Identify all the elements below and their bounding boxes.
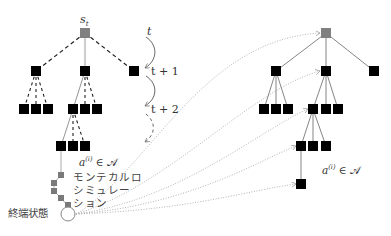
root-node xyxy=(80,28,90,38)
simulation-node xyxy=(51,180,57,186)
expanded-node xyxy=(296,179,306,189)
right-tree-nodes xyxy=(259,28,379,189)
tree-node xyxy=(369,66,379,76)
tree-node xyxy=(80,104,90,114)
tree-node xyxy=(92,104,102,114)
simulation-label-line2: シミュレー xyxy=(73,185,131,196)
tree-node xyxy=(68,141,78,151)
simulation-label-line1: モンテカルロ xyxy=(73,172,142,183)
tree-node xyxy=(321,141,331,151)
time-step-label-t: t xyxy=(147,26,151,37)
tree-node xyxy=(283,104,293,114)
tree-node xyxy=(333,104,343,114)
simulation-node xyxy=(58,195,64,201)
tree-node xyxy=(31,66,41,76)
simulation-node xyxy=(58,172,64,178)
terminal-state-node xyxy=(61,207,75,221)
tree-node xyxy=(129,66,139,76)
time-step-label-t1: t + 1 xyxy=(151,66,179,77)
tree-node xyxy=(56,141,66,151)
tree-node xyxy=(271,104,281,114)
simulation-label-line3: ション xyxy=(73,198,108,209)
terminal-state-label: 終端状態 xyxy=(8,208,48,219)
root-node xyxy=(321,28,331,38)
root-state-label: st xyxy=(80,14,88,28)
tree-node xyxy=(80,141,90,151)
tree-node xyxy=(19,104,29,114)
tree-node xyxy=(80,66,90,76)
tree-node xyxy=(43,104,53,114)
mcts-diagram xyxy=(0,0,391,236)
tree-node xyxy=(271,66,281,76)
tree-node xyxy=(308,104,318,114)
left-action-label: a(i) ∈ 𝒜 xyxy=(79,156,117,167)
action-set: ∈ 𝒜 xyxy=(335,164,359,176)
tree-node xyxy=(68,104,78,114)
tree-node xyxy=(259,104,269,114)
action-set: ∈ 𝒜 xyxy=(92,156,116,168)
tree-node xyxy=(296,141,306,151)
time-step-label-t2: t + 2 xyxy=(151,104,179,115)
simulation-node xyxy=(51,188,57,194)
tree-node xyxy=(321,104,331,114)
root-state-subscript: t xyxy=(86,20,89,28)
tree-node xyxy=(321,66,331,76)
time-step-arrows xyxy=(145,37,155,142)
tree-node xyxy=(31,104,41,114)
tree-node xyxy=(308,141,318,151)
right-action-label: a(i) ∈ 𝒜 xyxy=(322,164,360,175)
